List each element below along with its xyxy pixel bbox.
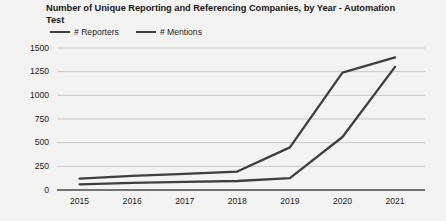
y-axis-tick-label: 0 bbox=[13, 185, 49, 195]
x-axis-tick-label: 2016 bbox=[112, 196, 152, 206]
y-axis-tick-label: 1000 bbox=[13, 90, 49, 100]
y-axis-tick-label: 500 bbox=[13, 137, 49, 147]
series-line-mentions bbox=[80, 57, 395, 178]
x-axis-tick-label: 2017 bbox=[165, 196, 205, 206]
series-lines-group bbox=[80, 57, 395, 184]
y-axis-tick-label: 1250 bbox=[13, 66, 49, 76]
chart-container: Number of Unique Reporting and Referenci… bbox=[0, 0, 446, 221]
x-axis-tick-label: 2019 bbox=[270, 196, 310, 206]
x-axis-tick-label: 2018 bbox=[217, 196, 257, 206]
x-axis-tick-label: 2020 bbox=[322, 196, 362, 206]
plot-area bbox=[0, 0, 446, 221]
y-axis-tick-label: 750 bbox=[13, 114, 49, 124]
y-axis-tick-label: 1500 bbox=[13, 43, 49, 53]
x-axis-tick-label: 2015 bbox=[60, 196, 100, 206]
x-axis-tick-label: 2021 bbox=[375, 196, 415, 206]
y-axis-tick-label: 250 bbox=[13, 161, 49, 171]
